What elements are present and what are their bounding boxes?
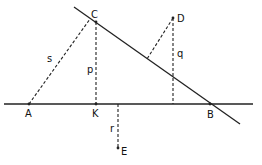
point-D-dot [172,17,175,20]
label-E: E [121,145,127,158]
point-C-dot [95,21,98,24]
segment-s-AC [29,19,90,104]
segment-D-perpendicular [147,18,173,59]
label-q: q [177,47,183,60]
label-s: s [47,52,52,65]
label-C: C [91,8,98,21]
point-A-dot [28,103,31,106]
label-K: K [92,107,99,120]
label-r: r [110,122,115,135]
slanted-line-CB [74,7,240,124]
label-A: A [25,107,32,120]
geometry-diagram: A K B C D E s p q r [0,0,262,165]
label-p: p [87,63,93,76]
point-E-dot [117,147,120,150]
label-B: B [207,108,214,121]
point-B-dot [209,103,212,106]
label-D: D [177,12,185,25]
point-K-dot [95,103,98,106]
